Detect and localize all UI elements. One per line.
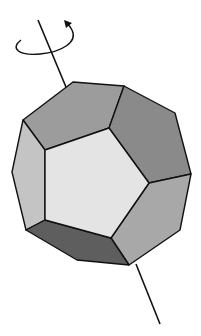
- rotation-axis-bottom: [136, 264, 160, 324]
- dodecahedron-diagram: [0, 0, 201, 336]
